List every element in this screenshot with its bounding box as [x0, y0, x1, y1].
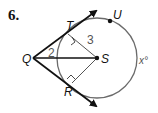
right-angle-mark-t	[71, 37, 75, 45]
label-s: S	[101, 53, 109, 65]
arc-label-x: x°	[139, 56, 148, 66]
label-3: 3	[87, 34, 94, 46]
label-t: T	[66, 20, 73, 32]
label-q: Q	[22, 53, 31, 65]
label-r: R	[64, 86, 73, 98]
radius-sr	[72, 58, 97, 83]
point-s	[95, 56, 99, 60]
geometry-figure: 6. T U Q S R 2 3 x°	[0, 0, 158, 113]
label-u: U	[113, 9, 122, 21]
label-2: 2	[48, 47, 55, 59]
right-angle-mark-r	[67, 75, 75, 79]
problem-number: 6.	[8, 8, 19, 23]
point-u	[108, 19, 112, 23]
